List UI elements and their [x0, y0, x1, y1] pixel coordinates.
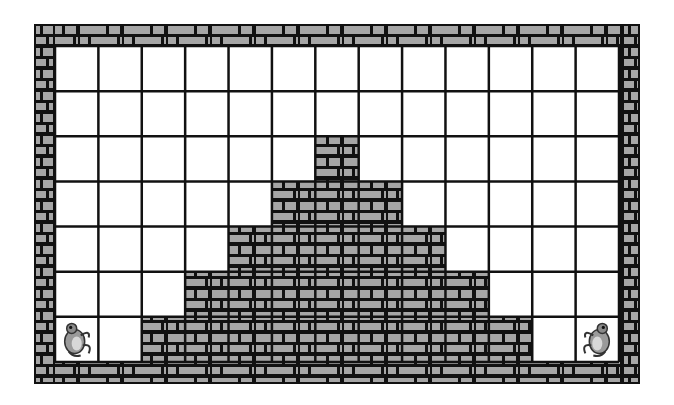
grid-cell[interactable]: [229, 46, 272, 91]
grid-cell[interactable]: [98, 272, 141, 317]
grid-cell[interactable]: [576, 91, 619, 136]
wall-cell: [315, 317, 358, 362]
wall-cell: [229, 272, 272, 317]
grid-cell[interactable]: [576, 181, 619, 226]
grid-cell[interactable]: [445, 181, 488, 226]
frame-wall-left: [34, 24, 55, 384]
wall-cell: [315, 227, 358, 272]
grid-cell[interactable]: [532, 136, 575, 181]
grid-cell[interactable]: [576, 46, 619, 91]
wall-cell: [359, 227, 402, 272]
wall-cell: [445, 272, 488, 317]
grid-cell[interactable]: [359, 46, 402, 91]
grid-cell[interactable]: [98, 317, 141, 362]
grid-cell[interactable]: [229, 136, 272, 181]
grid-cell[interactable]: [142, 91, 185, 136]
wall-cell: [185, 272, 228, 317]
grid-cell[interactable]: [402, 91, 445, 136]
wall-cell: [185, 317, 228, 362]
grid-cell[interactable]: [55, 272, 98, 317]
game-board: [34, 24, 640, 384]
board-grid: [34, 24, 640, 384]
grid-cell[interactable]: [576, 227, 619, 272]
wall-cell: [359, 272, 402, 317]
wall-cell: [272, 181, 315, 226]
grid-cell[interactable]: [55, 46, 98, 91]
grid-cell[interactable]: [272, 46, 315, 91]
grid-cell[interactable]: [142, 46, 185, 91]
grid-cell[interactable]: [532, 317, 575, 362]
grid-cell[interactable]: [402, 136, 445, 181]
wall-cell: [315, 181, 358, 226]
wall-cell: [445, 317, 488, 362]
grid-cell[interactable]: [489, 46, 532, 91]
grid-cell[interactable]: [98, 181, 141, 226]
grid-cell[interactable]: [315, 46, 358, 91]
grid-cell[interactable]: [229, 91, 272, 136]
grid-cell[interactable]: [142, 136, 185, 181]
grid-cell[interactable]: [185, 136, 228, 181]
grid-cell[interactable]: [445, 136, 488, 181]
grid-cell[interactable]: [532, 227, 575, 272]
grid-cell[interactable]: [532, 91, 575, 136]
grid-cell[interactable]: [98, 227, 141, 272]
grid-cell[interactable]: [576, 136, 619, 181]
wall-cell: [315, 272, 358, 317]
grid-cell[interactable]: [272, 91, 315, 136]
grid-cell[interactable]: [489, 136, 532, 181]
grid-cell[interactable]: [185, 46, 228, 91]
wall-cell: [229, 227, 272, 272]
grid-cell[interactable]: [185, 91, 228, 136]
grid-cell[interactable]: [142, 181, 185, 226]
grid-cell[interactable]: [55, 181, 98, 226]
grid-cell[interactable]: [55, 227, 98, 272]
wall-cell: [402, 227, 445, 272]
grid-cell[interactable]: [532, 181, 575, 226]
wall-cell: [359, 317, 402, 362]
grid-cell[interactable]: [445, 91, 488, 136]
wall-cell: [272, 272, 315, 317]
grid-cell[interactable]: [489, 91, 532, 136]
wall-cell: [489, 317, 532, 362]
grid-cell[interactable]: [315, 91, 358, 136]
wall-cell: [272, 227, 315, 272]
grid-cell[interactable]: [402, 181, 445, 226]
grid-cell[interactable]: [185, 181, 228, 226]
wall-cell: [402, 317, 445, 362]
wall-cell: [229, 317, 272, 362]
grid-cell[interactable]: [55, 136, 98, 181]
grid-cell[interactable]: [359, 91, 402, 136]
grid-cell[interactable]: [55, 91, 98, 136]
grid-cell[interactable]: [98, 136, 141, 181]
grid-cell[interactable]: [185, 227, 228, 272]
grid-cell[interactable]: [142, 227, 185, 272]
grid-cell[interactable]: [359, 136, 402, 181]
grid-cell[interactable]: [576, 272, 619, 317]
wall-cell: [142, 317, 185, 362]
wall-cell: [315, 136, 358, 181]
grid-cell[interactable]: [272, 136, 315, 181]
grid-cell[interactable]: [532, 272, 575, 317]
wall-cell: [402, 272, 445, 317]
wall-cell: [272, 317, 315, 362]
grid-cell[interactable]: [445, 46, 488, 91]
grid-cell[interactable]: [142, 272, 185, 317]
grid-cell[interactable]: [489, 272, 532, 317]
grid-cell[interactable]: [229, 181, 272, 226]
grid-cell[interactable]: [489, 227, 532, 272]
wall-cell: [359, 181, 402, 226]
grid-cell[interactable]: [489, 181, 532, 226]
frame-wall-right: [619, 24, 640, 384]
grid-cell[interactable]: [98, 91, 141, 136]
grid-cell[interactable]: [402, 46, 445, 91]
grid-cell[interactable]: [445, 227, 488, 272]
grid-cell[interactable]: [98, 46, 141, 91]
grid-cell[interactable]: [532, 46, 575, 91]
